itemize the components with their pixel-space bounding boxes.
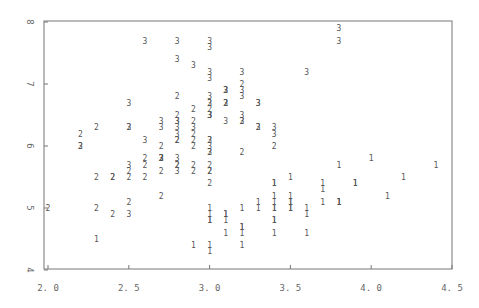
data-point-label: 2 <box>191 161 196 170</box>
data-point-label: 1 <box>320 185 325 194</box>
plot-axes <box>44 21 452 269</box>
data-point-label: 3 <box>159 123 164 132</box>
y-tick-label: 6 <box>25 143 35 148</box>
data-points: 1111111111111111111111111111111111111111… <box>46 24 439 256</box>
data-point-label: 3 <box>336 37 341 46</box>
data-point-label: 1 <box>272 229 277 238</box>
data-point-label: 3 <box>143 37 148 46</box>
data-point-label: 2 <box>46 204 51 213</box>
data-point-label: 1 <box>336 198 341 207</box>
data-point-label: 2 <box>78 130 83 139</box>
data-point-label: 3 <box>240 68 245 77</box>
data-point-label: 3 <box>223 117 228 126</box>
data-point-label: 3 <box>191 61 196 70</box>
data-point-label: 3 <box>126 99 131 108</box>
data-point-label: 3 <box>175 154 180 163</box>
data-point-label: 3 <box>126 123 131 132</box>
data-point-label: 2 <box>175 92 180 101</box>
data-point-label: 3 <box>175 37 180 46</box>
data-point-label: 1 <box>433 161 438 170</box>
data-point-label: 1 <box>207 216 212 225</box>
data-point-label: 2 <box>143 154 148 163</box>
data-point-label: 1 <box>288 204 293 213</box>
data-point-label: 3 <box>223 99 228 108</box>
x-tick-label: 2. 5 <box>118 283 140 293</box>
data-point-label: 1 <box>304 210 309 219</box>
data-point-label: 2 <box>240 148 245 157</box>
data-point-label: 1 <box>207 204 212 213</box>
data-point-label: 2 <box>191 142 196 151</box>
data-point-label: 3 <box>207 68 212 77</box>
data-point-label: 1 <box>240 204 245 213</box>
data-point-label: 2 <box>94 204 99 213</box>
data-point-label: 3 <box>175 167 180 176</box>
data-point-label: 3 <box>175 123 180 132</box>
data-point-label: 1 <box>288 192 293 201</box>
data-point-label: 1 <box>336 161 341 170</box>
data-point-label: 3 <box>207 99 212 108</box>
data-point-label: 1 <box>191 241 196 250</box>
y-tick-label: 5 <box>25 205 35 210</box>
data-point-label: 2 <box>159 167 164 176</box>
data-point-label: 1 <box>304 229 309 238</box>
data-point-label: 3 <box>207 37 212 46</box>
data-point-label: 2 <box>110 173 115 182</box>
data-point-label: 2 <box>159 142 164 151</box>
y-tick-label: 8 <box>25 19 35 24</box>
y-axis-ticks: 45678 <box>25 19 48 272</box>
data-point-label: 1 <box>94 235 99 244</box>
data-point-label: 2 <box>126 198 131 207</box>
data-point-label: 1 <box>240 241 245 250</box>
data-point-label: 2 <box>94 123 99 132</box>
data-point-label: 3 <box>272 130 277 139</box>
x-tick-label: 3. 5 <box>280 283 302 293</box>
y-tick-label: 7 <box>25 81 35 86</box>
data-point-label: 1 <box>272 179 277 188</box>
plot-frame <box>44 21 452 269</box>
data-point-label: 1 <box>272 216 277 225</box>
data-point-label: 3 <box>159 154 164 163</box>
data-point-label: 2 <box>143 173 148 182</box>
data-point-label: 1 <box>401 173 406 182</box>
data-point-label: 3 <box>256 123 261 132</box>
data-point-label: 2 <box>191 105 196 114</box>
data-point-label: 1 <box>369 154 374 163</box>
x-tick-label: 3. 0 <box>199 283 221 293</box>
x-tick-label: 4. 5 <box>441 283 463 293</box>
data-point-label: 1 <box>272 198 277 207</box>
data-point-label: 3 <box>126 210 131 219</box>
data-point-label: 3 <box>223 86 228 95</box>
data-point-label: 2 <box>207 161 212 170</box>
data-point-label: 1 <box>223 229 228 238</box>
data-point-label: 2 <box>159 192 164 201</box>
data-point-label: 1 <box>223 210 228 219</box>
x-tick-label: 4. 0 <box>360 283 382 293</box>
data-point-label: 1 <box>207 241 212 250</box>
data-point-label: 3 <box>304 68 309 77</box>
data-point-label: 3 <box>336 24 341 33</box>
data-point-label: 3 <box>207 111 212 120</box>
data-point-label: 3 <box>256 99 261 108</box>
data-point-label: 3 <box>191 123 196 132</box>
data-point-label: 3 <box>78 142 83 151</box>
data-point-label: 3 <box>126 161 131 170</box>
data-point-label: 2 <box>126 173 131 182</box>
data-point-label: 3 <box>240 92 245 101</box>
data-point-label: 2 <box>272 142 277 151</box>
data-point-label: 1 <box>288 173 293 182</box>
data-point-label: 2 <box>110 210 115 219</box>
data-point-label: 1 <box>385 192 390 201</box>
data-point-label: 1 <box>353 179 358 188</box>
data-point-label: 1 <box>320 198 325 207</box>
data-point-label: 3 <box>240 117 245 126</box>
data-point-label: 2 <box>207 179 212 188</box>
scatter-chart: 2. 02. 53. 03. 54. 04. 5 45678 111111111… <box>0 0 479 308</box>
data-point-label: 2 <box>94 173 99 182</box>
x-tick-label: 2. 0 <box>37 283 59 293</box>
data-point-label: 1 <box>256 204 261 213</box>
y-tick-label: 4 <box>25 267 35 272</box>
data-point-label: 3 <box>143 136 148 145</box>
data-point-label: 3 <box>175 55 180 64</box>
data-point-label: 1 <box>240 229 245 238</box>
data-point-label: 3 <box>207 148 212 157</box>
